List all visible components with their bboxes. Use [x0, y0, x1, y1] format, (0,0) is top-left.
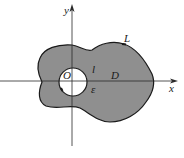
region-d — [38, 42, 154, 122]
region-diagram: y x L O l D ε — [0, 0, 184, 158]
x-axis-label: x — [168, 82, 174, 94]
inner-circle-arrow-icon — [61, 88, 63, 91]
outer-curve-label: L — [123, 32, 130, 44]
y-axis-label: y — [63, 4, 69, 16]
inner-circle-label: l — [92, 63, 95, 75]
origin-label: O — [63, 69, 71, 81]
radius-label: ε — [91, 83, 96, 95]
region-label: D — [110, 69, 119, 81]
outer-curve-arrow-icon — [122, 44, 126, 45]
